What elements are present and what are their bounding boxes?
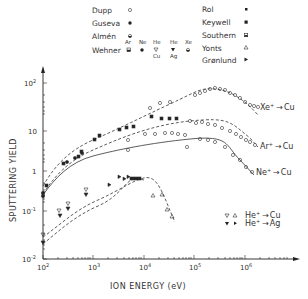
xe-cu-curve (43, 89, 258, 186)
legend-right: Rol Keywell Southern Yonts Grønlund (201, 5, 248, 65)
ne-cu-curve (43, 138, 254, 195)
y-axis-label: SPUTTERING YIELD (9, 138, 18, 222)
legend-keywell: Keywell (202, 18, 231, 27)
open-down-triangle-icon (154, 48, 158, 52)
data-points (41, 86, 260, 244)
y-tick-1: 1 (32, 168, 36, 176)
y-tick-0.01: 10-2 (22, 254, 36, 264)
filled-down-triangle-icon (225, 222, 229, 226)
y-tick-0.1: 10-1 (22, 206, 36, 216)
legend-guseva: Guseva (92, 19, 120, 28)
filled-circle-icon (140, 48, 143, 51)
filled-down-triangle-icon (171, 48, 175, 52)
annotation-ar-cu: Ar+→Cu (260, 141, 293, 151)
wehner-ne-label: Ne (139, 39, 147, 45)
filled-circle-icon (128, 21, 131, 24)
x-axis-label: ION ENERGY (eV) (110, 282, 186, 291)
curves (43, 89, 258, 244)
y-tick-100: 102 (24, 78, 36, 88)
x-tick-1e2: 102 (37, 262, 49, 272)
x-tick-1e4: 104 (139, 262, 151, 272)
legend-southern: Southern (202, 31, 236, 40)
y-tick-10: 10 (28, 128, 37, 136)
axes: 102 10 1 10-1 10-2 102 103 104 105 106 I… (9, 66, 300, 291)
annotation-xe-cu: Xe+→Cu (260, 102, 295, 112)
wehner-he-ag-label: He (170, 39, 178, 45)
wehner-cu-label: Cu (153, 53, 160, 59)
sputtering-yield-chart: Dupp Guseva Almén Wehner Ar Ne He Cu He … (0, 0, 308, 299)
open-triangle-icon (233, 214, 237, 218)
legend-yonts: Yonts (201, 44, 222, 53)
legend-almen: Almén (92, 32, 116, 41)
y-axis-arrow-icon (41, 66, 45, 73)
annotation-ne-cu: Ne+→Cu (256, 167, 291, 177)
open-down-triangle-icon (225, 214, 229, 218)
x-tick-1e6: 106 (240, 262, 252, 272)
x-tick-1e3: 103 (88, 262, 100, 272)
wehner-ar-label: Ar (125, 39, 132, 45)
filled-square-small-icon (245, 8, 248, 11)
legend-gronlund: Grønlund (202, 56, 237, 65)
annotation-he-ag: He+→Ag (225, 218, 280, 228)
legend-wehner: Wehner (92, 46, 122, 55)
legend-dupp: Dupp (92, 6, 112, 15)
filled-right-triangle-icon (234, 222, 237, 226)
svg-text:He+→Ag: He+→Ag (245, 218, 280, 228)
open-circle-icon (128, 8, 131, 11)
x-axis-arrow-icon (293, 257, 300, 261)
legend-rol: Rol (202, 5, 214, 14)
wehner-xe-label: Xe (185, 39, 193, 45)
filled-square-icon (245, 21, 248, 24)
wehner-ag-label: Ag (170, 53, 177, 60)
annotations: Xe+→Cu Ar+→Cu Ne+→Cu He+→Cu He+→Ag (225, 102, 295, 228)
open-triangle-icon (244, 46, 248, 50)
x-tick-1e5: 105 (189, 262, 201, 272)
legend-left: Dupp Guseva Almén Wehner Ar Ne He Cu He … (92, 6, 193, 60)
wehner-he-cu-label: He (153, 39, 161, 45)
filled-right-triangle-icon (245, 58, 249, 62)
